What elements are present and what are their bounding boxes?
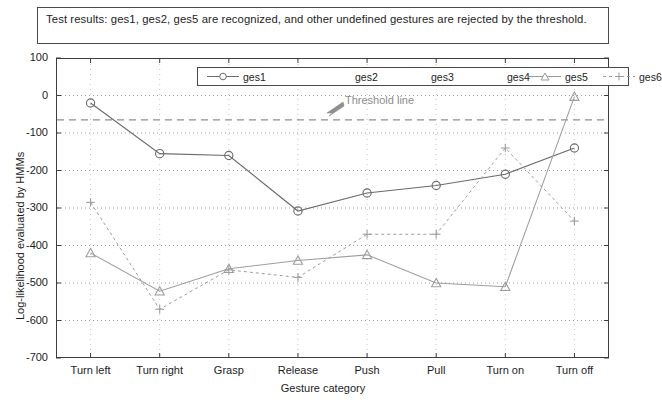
x-tick-label: Turn off [529, 364, 619, 376]
legend-item-ges5[interactable]: ges5 [528, 68, 588, 85]
y-tick-label: 0 [2, 89, 48, 101]
data-point-ges6-7 [570, 217, 579, 226]
legend-marker-none-icon [470, 71, 504, 82]
legend-marker-triangle-icon [528, 71, 562, 82]
data-point-ges6-5 [432, 230, 441, 239]
gridlines [57, 59, 608, 357]
legend-marker-circle-icon [206, 71, 240, 82]
legend-item-ges4[interactable]: ges4 [470, 68, 530, 85]
legend-item-ges6[interactable]: ges6 [602, 68, 662, 85]
threshold-annotation-label: Threshold line [345, 94, 414, 106]
legend-marker-plus-icon [602, 71, 636, 82]
y-tick-label: 100 [2, 51, 48, 63]
data-point-ges6-0 [86, 198, 95, 207]
legend-label: ges1 [243, 71, 266, 83]
data-point-ges6-1 [155, 305, 164, 314]
y-tick-label: -700 [2, 351, 48, 363]
legend-item-ges1[interactable]: ges1 [206, 68, 266, 85]
legend-label: ges5 [565, 71, 588, 83]
data-series [86, 92, 579, 314]
legend-marker-none-icon [318, 71, 352, 82]
legend-item-ges2[interactable]: ges2 [318, 68, 378, 85]
axis-ticks [56, 58, 609, 358]
legend-label: ges4 [507, 71, 530, 83]
legend-label: ges6 [639, 71, 662, 83]
legend-label: ges2 [355, 71, 378, 83]
legend: ges1ges2ges3ges4ges5ges6 [197, 67, 629, 86]
legend-item-ges3[interactable]: ges3 [394, 68, 454, 85]
threshold-arrow-icon [327, 102, 344, 116]
legend-label: ges3 [431, 71, 454, 83]
legend-marker-none-icon [394, 71, 428, 82]
x-axis-title: Gesture category [0, 382, 646, 394]
data-point-ges6-4 [363, 230, 372, 239]
y-axis-title: Log-likelihood evaluated by HMMs [14, 152, 26, 320]
y-tick-label: -100 [2, 126, 48, 138]
data-point-ges6-3 [294, 273, 303, 282]
series-line-ges5 [91, 97, 575, 292]
series-line-ges1 [91, 103, 575, 211]
